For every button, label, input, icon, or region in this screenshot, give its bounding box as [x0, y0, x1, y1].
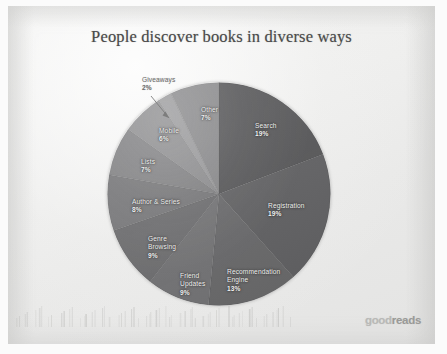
barcode-bar: [84, 316, 85, 327]
barcode-bar: [169, 317, 170, 327]
barcode-bar: [27, 312, 28, 327]
presentation-slide: People discover books in diverse ways Se…: [8, 6, 435, 344]
barcode-bar: [283, 306, 284, 327]
barcode-bar: [104, 306, 105, 327]
pie-chart: Search19%Registration19%RecommendationEn…: [107, 82, 331, 306]
barcode-bar: [192, 307, 193, 327]
barcode-bar: [92, 312, 93, 327]
barcode-bar: [242, 311, 243, 327]
barcode-bar: [191, 309, 192, 327]
barcode-bar: [256, 318, 257, 327]
barcode-bar: [131, 309, 132, 327]
barcode-bar: [233, 317, 234, 327]
goodreads-logo: goodreads: [365, 314, 421, 326]
barcode-bar: [264, 316, 265, 327]
barcode-bar: [277, 310, 278, 327]
barcode-bar: [228, 306, 230, 327]
barcode-bar: [185, 311, 186, 327]
barcode-bar: [72, 307, 73, 327]
barcode-bar: [219, 308, 220, 327]
barcode-bar: [133, 307, 135, 327]
barcode-bar: [272, 312, 274, 327]
barcode-bar: [180, 313, 182, 327]
barcode-bar: [208, 314, 209, 327]
barcode-bar: [156, 310, 158, 327]
barcode-bar: [146, 316, 147, 327]
barcode-bar: [239, 313, 240, 327]
barcode-bar: [80, 318, 81, 327]
barcode-bar: [39, 308, 41, 327]
decorative-barcode-strip: [14, 303, 314, 331]
barcode-bar: [195, 318, 196, 327]
barcode-bar: [85, 314, 87, 327]
barcode-bar: [95, 310, 96, 327]
barcode-bar: [252, 307, 253, 327]
page-title: People discover books in diverse ways: [8, 27, 435, 47]
screenshot-root: People discover books in diverse ways Se…: [0, 0, 447, 354]
barcode-bar: [51, 315, 52, 327]
barcode-bar: [36, 310, 37, 327]
barcode-bar: [266, 314, 267, 327]
barcode-bar: [278, 308, 279, 327]
barcode-bar: [290, 317, 291, 327]
brand-good: good: [365, 314, 392, 326]
barcode-bar: [216, 310, 217, 327]
barcode-bar: [41, 306, 42, 327]
barcode-bar: [63, 311, 65, 327]
barcode-bar: [249, 309, 251, 327]
barcode-bar: [149, 314, 150, 327]
barcode-bar: [48, 317, 49, 327]
barcode-bar: [171, 315, 172, 327]
barcode-bar: [25, 314, 26, 327]
brand-reads: reads: [392, 314, 421, 326]
pie-slice-label-text: Giveaways: [142, 76, 175, 83]
barcode-bar: [138, 318, 139, 327]
barcode-bar: [234, 315, 235, 327]
barcode-bar: [109, 317, 111, 327]
barcode-bar: [125, 311, 126, 327]
barcode-bar: [151, 312, 152, 327]
barcode-bar: [159, 308, 160, 327]
barcode-bar: [16, 318, 18, 327]
barcode-bar: [19, 316, 20, 327]
pie-chart-svg: [107, 82, 331, 306]
barcode-bar: [69, 309, 70, 327]
barcode-bar: [102, 308, 103, 327]
barcode-bar: [121, 313, 122, 327]
barcode-bar: [203, 316, 205, 327]
barcode-bar: [119, 315, 120, 327]
barcode-bar: [166, 306, 167, 327]
barcode-bar: [61, 313, 62, 327]
barcode-bar: [210, 312, 211, 327]
